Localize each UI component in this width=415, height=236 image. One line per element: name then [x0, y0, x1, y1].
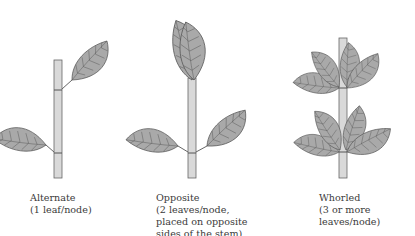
opposite-plant [125, 20, 255, 178]
leaf-icon [199, 107, 255, 153]
stem [188, 78, 196, 178]
caption-whorled: Whorled(3 or moreleaves/node) [319, 192, 380, 228]
caption-alternate: Alternate(1 leaf/node) [30, 192, 92, 216]
alternate-plant [0, 38, 118, 178]
caption-line: (2 leaves/node, [156, 204, 248, 216]
whorled-plant [292, 38, 395, 178]
caption-line: placed on opposite [156, 216, 248, 228]
caption-opposite: Opposite(2 leaves/node,placed on opposit… [156, 192, 248, 236]
caption-title: Whorled [319, 192, 380, 204]
leaf-icon [125, 121, 181, 160]
caption-line: (3 or more [319, 204, 380, 216]
caption-title: Alternate [30, 192, 92, 204]
caption-title: Opposite [156, 192, 248, 204]
leaf-icon [63, 38, 118, 86]
caption-line: leaves/node) [319, 216, 380, 228]
caption-line: sides of the stem) [156, 228, 248, 236]
leaf-arrangement-diagram: Alternate(1 leaf/node) Opposite(2 leaves… [0, 0, 415, 236]
stem [54, 60, 62, 178]
leaf-icon [0, 120, 49, 159]
caption-line: (1 leaf/node) [30, 204, 92, 216]
